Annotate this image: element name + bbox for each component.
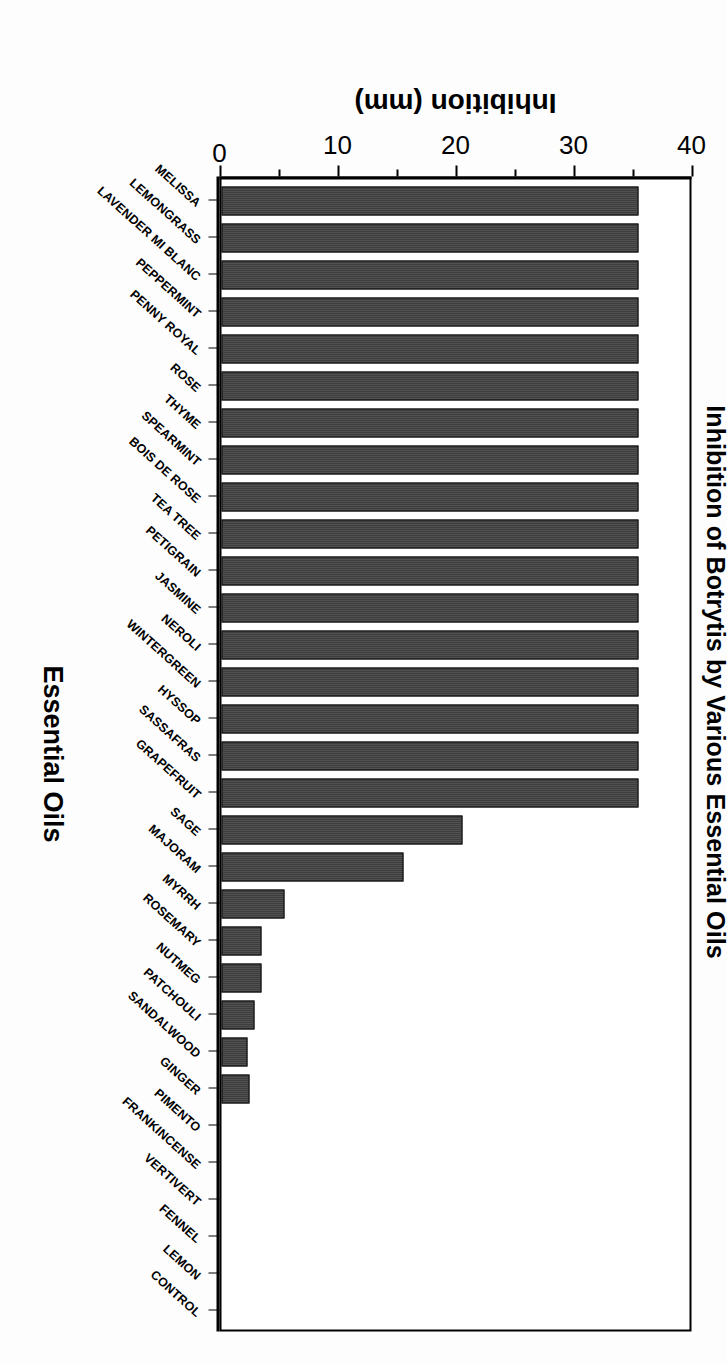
x-tick (208, 310, 219, 312)
y-axis-title: Inhibition (mm) (219, 82, 691, 122)
x-tick (208, 1161, 219, 1163)
y-tick-label: 10 (323, 130, 352, 161)
bar (221, 926, 261, 956)
x-tick (208, 532, 219, 534)
bar-slot (221, 330, 689, 367)
bar (221, 815, 462, 845)
bar (221, 334, 638, 364)
x-tick (208, 458, 219, 460)
x-tick (208, 1087, 219, 1089)
bar-slot (221, 1255, 689, 1292)
y-tick-label: 20 (441, 130, 470, 161)
bar-slot (221, 885, 689, 922)
bar (221, 260, 638, 290)
bar-slot (221, 922, 689, 959)
bar-slot (221, 1144, 689, 1181)
bar-slot (221, 774, 689, 811)
x-category-label: SAGE (167, 804, 203, 838)
x-tick (208, 1309, 219, 1311)
y-axis: 010203040 (219, 176, 691, 179)
bar-slot (221, 441, 689, 478)
x-tick (208, 828, 219, 830)
plot-area (219, 176, 691, 1331)
x-tick (208, 939, 219, 941)
chart-figure: Inhibition of Botrytis by Various Essent… (0, 0, 727, 1363)
bar-slot (221, 996, 689, 1033)
x-tick (208, 1198, 219, 1200)
bar (221, 445, 638, 475)
bar-series (221, 178, 689, 1329)
x-tick (208, 717, 219, 719)
x-tick (208, 273, 219, 275)
x-tick (208, 569, 219, 571)
bar (221, 186, 638, 216)
x-tick (208, 1235, 219, 1237)
bar (221, 704, 638, 734)
x-tick (208, 421, 219, 423)
bar-slot (221, 848, 689, 885)
y-tick-minor (396, 169, 398, 176)
bar-slot (221, 589, 689, 626)
bar-slot (221, 293, 689, 330)
x-tick (208, 495, 219, 497)
x-tick (208, 643, 219, 645)
x-tick (208, 791, 219, 793)
bar (221, 1000, 254, 1030)
bar (221, 889, 284, 919)
x-tick (208, 606, 219, 608)
bar (221, 223, 638, 253)
y-tick-minor (632, 169, 634, 176)
x-tick (208, 680, 219, 682)
y-tick-major (337, 165, 339, 176)
bar-slot (221, 1033, 689, 1070)
x-tick (208, 347, 219, 349)
bar (221, 1037, 247, 1067)
chart-title: Inhibition of Botrytis by Various Essent… (700, 0, 727, 1363)
bar (221, 630, 638, 660)
bar (221, 297, 638, 327)
bar-slot (221, 737, 689, 774)
x-category-label: PENNY ROYAL (127, 286, 203, 357)
x-category-label: SANDALWOOD (125, 987, 203, 1059)
bar-slot (221, 700, 689, 737)
x-tick (208, 1124, 219, 1126)
x-tick (208, 1013, 219, 1015)
bar-slot (221, 1107, 689, 1144)
bar-slot (221, 219, 689, 256)
x-tick (208, 384, 219, 386)
y-tick-label: 40 (677, 130, 706, 161)
bar (221, 371, 638, 401)
x-axis: MELISSALEMONGRASSLAVENDER MI BLANCPEPPER… (217, 176, 220, 1331)
bar (221, 1074, 249, 1104)
bar-slot (221, 1181, 689, 1218)
y-tick-major (455, 165, 457, 176)
y-tick-major (573, 165, 575, 176)
x-tick (208, 199, 219, 201)
x-tick (208, 754, 219, 756)
bar-slot (221, 515, 689, 552)
bar (221, 408, 638, 438)
bar (221, 519, 638, 549)
x-category-label: WINTERGREEN (123, 616, 203, 690)
bar (221, 741, 638, 771)
bar-slot (221, 1292, 689, 1329)
x-axis-title: Essential Oils (36, 176, 67, 1331)
y-tick-label: 30 (559, 130, 588, 161)
bar-slot (221, 1218, 689, 1255)
bar-slot (221, 959, 689, 996)
x-tick (208, 236, 219, 238)
x-category-label: FENNEL (156, 1201, 203, 1245)
y-tick-minor (514, 169, 516, 176)
bar (221, 593, 638, 623)
x-category-label: ROSE (167, 360, 203, 394)
bar-slot (221, 367, 689, 404)
bar-slot (221, 1070, 689, 1107)
bar (221, 667, 638, 697)
bar-slot (221, 626, 689, 663)
bar-slot (221, 663, 689, 700)
x-tick (208, 1050, 219, 1052)
bar-slot (221, 552, 689, 589)
x-category-label: BOIS DE ROSE (126, 433, 203, 505)
x-tick (208, 1272, 219, 1274)
bar (221, 556, 638, 586)
